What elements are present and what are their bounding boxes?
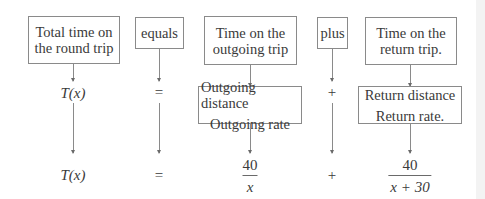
middle-equals-sign: = (155, 84, 163, 101)
return-time-box: Time on the return trip. (365, 17, 457, 65)
equals-label: equals (141, 25, 178, 41)
arrow-return-to-fraction (410, 65, 411, 86)
outgoing-time-box: Time on the outgoing trip (204, 16, 297, 65)
return-distance-numerator: Return distance (363, 87, 458, 105)
outgoing-time-line1: Time on the (216, 25, 286, 41)
outgoing-time-line2: outgoing trip (213, 41, 288, 57)
arrow-equals-to-middle (159, 49, 160, 81)
return-rate-denominator: Return rate. (376, 105, 444, 124)
outgoing-numerator-40: 40 (243, 157, 258, 175)
return-time-line1: Time on the (376, 25, 446, 41)
bottom-return-fraction: 40 x + 30 (390, 157, 429, 195)
bottom-equals-sign: = (155, 167, 163, 184)
middle-total-expression: T(x) (61, 85, 86, 102)
arrow-total-to-middle (73, 64, 74, 81)
plus-label: plus (320, 25, 344, 41)
arrow-total-to-bottom (73, 103, 74, 153)
arrow-plus-to-bottom (332, 103, 333, 153)
equals-box: equals (135, 17, 184, 49)
bottom-total-expression: T(x) (61, 167, 86, 184)
total-time-line1: Total time on (35, 24, 112, 40)
arrow-plus-to-middle (332, 49, 333, 81)
bottom-plus-sign: + (328, 167, 336, 184)
return-time-line2: return trip. (380, 41, 442, 57)
return-numerator-40: 40 (403, 157, 418, 175)
right-margin-stripe (476, 0, 485, 199)
return-fraction-box: Return distance Return rate. (358, 86, 462, 124)
outgoing-fraction-box: Outgoing distance Outgoing rate (198, 86, 302, 124)
total-time-box: Total time on the round trip (28, 16, 120, 64)
bottom-outgoing-fraction: 40 x (243, 157, 258, 195)
outgoing-denominator-x: x (247, 176, 254, 195)
arrow-return-fraction-to-bottom (410, 124, 411, 153)
arrow-equals-to-bottom (159, 103, 160, 153)
outgoing-distance-numerator: Outgoing distance (199, 79, 301, 113)
total-time-line2: the round trip (35, 40, 114, 56)
plus-box: plus (317, 17, 348, 49)
arrow-outgoing-fraction-to-bottom (250, 124, 251, 153)
return-denominator-x-plus-30: x + 30 (390, 176, 429, 195)
middle-plus-sign: + (328, 84, 336, 101)
